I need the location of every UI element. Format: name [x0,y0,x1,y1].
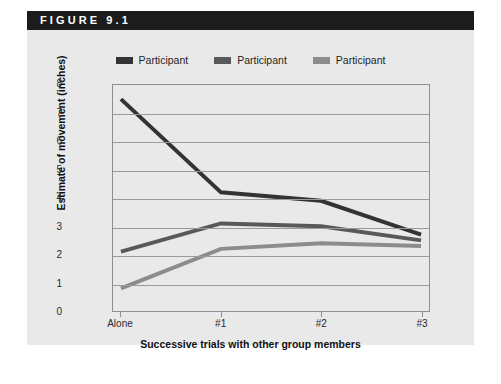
series-line-3 [121,243,421,288]
x-axis-tick-label: Alone [90,318,150,329]
figure-panel: FIGURE 9.1 ParticipantParticipantPartici… [27,11,474,345]
y-axis-tick-label: 2 [38,249,62,260]
gridline [113,114,429,115]
legend-item-3: Participant [313,54,386,66]
x-axis-tick-label: #2 [291,318,351,329]
legend-item-label: Participant [237,54,287,66]
chart-legend: ParticipantParticipantParticipant [27,53,474,67]
x-axis-tick-mark [120,312,121,317]
x-axis-tick-mark [422,312,423,317]
figure-number-label: FIGURE 9.1 [40,14,131,26]
legend-swatch-icon [214,57,231,64]
legend-item-label: Participant [139,54,189,66]
gridline [113,285,429,286]
y-axis-tick-label: 1 [38,278,62,289]
y-axis-tick-label: 4 [38,192,62,203]
x-axis-tick-label: #3 [392,318,452,329]
x-axis-tick-mark [321,312,322,317]
gridline [113,199,429,200]
gridline [113,142,429,143]
gridline [113,256,429,257]
y-axis-tick-label: 0 [38,306,62,317]
y-axis-tick-label: 7 [38,107,62,118]
plot-area [112,84,430,312]
x-axis-tick-mark [221,312,222,317]
legend-swatch-icon [313,57,330,64]
chart-lines [113,85,429,311]
y-axis-tick-label: 6 [38,135,62,146]
figure-header-bar: FIGURE 9.1 [27,11,474,30]
legend-swatch-icon [116,57,133,64]
legend-item-2: Participant [214,54,287,66]
y-axis-tick-label: 3 [38,221,62,232]
legend-item-label: Participant [336,54,386,66]
gridline [113,228,429,229]
series-line-1 [121,99,421,235]
y-axis-tick-label: 5 [38,164,62,175]
legend-item-1: Participant [116,54,189,66]
y-axis-tick-label: 8 [38,78,62,89]
x-axis-title: Successive trials with other group membe… [27,338,474,350]
gridline [113,171,429,172]
x-axis-tick-label: #1 [191,318,251,329]
